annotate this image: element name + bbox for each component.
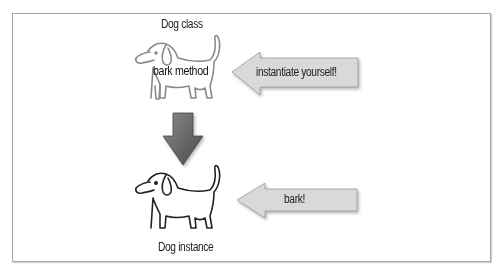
bark-method-label: bark method [153, 64, 208, 78]
dog-instance-title: Dog instance [158, 240, 213, 254]
dog-instance-icon [136, 166, 220, 228]
diagram-canvas [0, 0, 502, 271]
dog-class-title: Dog class [161, 17, 203, 31]
instantiation-arrow-down [163, 113, 203, 165]
bark-arrow-label: bark! [284, 192, 305, 206]
instantiate-arrow-label: instantiate yourself! [256, 65, 337, 79]
